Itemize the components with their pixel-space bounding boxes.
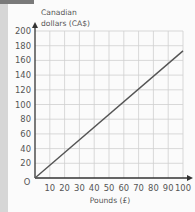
x-tick-label: 70: [133, 183, 144, 193]
x-tick-label: 10: [44, 183, 55, 193]
y-tick-label: 80: [20, 114, 31, 124]
y-tick-label: 20: [20, 158, 31, 168]
origin-label: O: [24, 177, 31, 187]
x-tick-label: 90: [163, 183, 174, 193]
y-tick-label: 40: [20, 144, 31, 154]
y-tick-label: 180: [15, 41, 31, 51]
x-tick-label: 80: [148, 183, 159, 193]
x-tick-label: 30: [74, 183, 85, 193]
y-tick-label: 120: [15, 85, 31, 95]
y-tick-label: 100: [15, 100, 31, 110]
x-axis-label: Pounds (£): [90, 196, 131, 205]
y-axis-label-line2: dollars (CA$): [41, 19, 90, 28]
x-tick-label: 60: [118, 183, 129, 193]
y-tick-label: 60: [20, 129, 31, 139]
y-axis-arrow-icon: [32, 22, 38, 28]
x-tick-label: 50: [104, 183, 115, 193]
y-axis-label-line1: Canadian: [41, 8, 77, 17]
x-axis-arrow-icon: [187, 175, 193, 181]
y-tick-label: 200: [15, 26, 31, 36]
y-tick-labels: 20406080100120140160180200: [15, 26, 31, 168]
x-tick-labels: 102030405060708090100: [44, 183, 191, 193]
x-tick-label: 100: [175, 183, 191, 193]
conversion-chart: 20406080100120140160180200 1020304050607…: [0, 0, 195, 212]
y-tick-label: 160: [15, 55, 31, 65]
y-tick-label: 140: [15, 70, 31, 80]
x-tick-label: 40: [89, 183, 100, 193]
x-tick-label: 20: [59, 183, 70, 193]
chart-grid: [35, 31, 183, 178]
